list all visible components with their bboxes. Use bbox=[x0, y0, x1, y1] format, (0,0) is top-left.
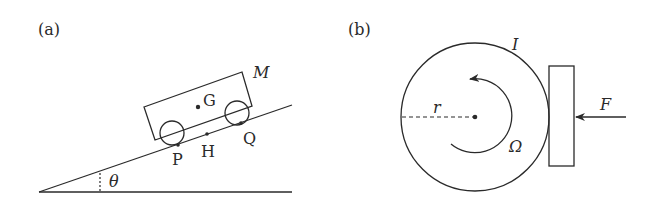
mass-label: M bbox=[252, 63, 270, 82]
radius-label: r bbox=[433, 98, 442, 117]
incline-surface bbox=[39, 105, 292, 192]
point-q-dot bbox=[239, 121, 243, 125]
force-label: F bbox=[599, 95, 612, 114]
point-p-dot bbox=[176, 143, 180, 147]
front-wheel bbox=[225, 101, 249, 125]
point-q-label: Q bbox=[243, 129, 256, 148]
rotation-arrow-icon bbox=[451, 79, 512, 153]
panel-b: (b) I r Ω F bbox=[348, 20, 626, 191]
diagram-canvas: (a) θ M G P H Q (b) I r Ω bbox=[0, 0, 655, 215]
panel-a-label: (a) bbox=[38, 20, 60, 39]
center-of-mass-label: G bbox=[203, 91, 216, 110]
panel-b-label: (b) bbox=[348, 20, 371, 39]
disk-center-dot bbox=[473, 115, 478, 120]
panel-a: (a) θ M G P H Q bbox=[38, 20, 292, 192]
rear-wheel bbox=[160, 121, 184, 145]
angle-theta-label: θ bbox=[109, 172, 119, 191]
brake-pad bbox=[549, 66, 574, 166]
point-h-dot bbox=[205, 132, 209, 136]
moment-of-inertia-label: I bbox=[511, 35, 519, 54]
center-of-mass-dot bbox=[196, 105, 200, 109]
point-p-label: P bbox=[172, 150, 183, 169]
angular-velocity-label: Ω bbox=[508, 137, 522, 156]
point-h-label: H bbox=[201, 142, 215, 161]
